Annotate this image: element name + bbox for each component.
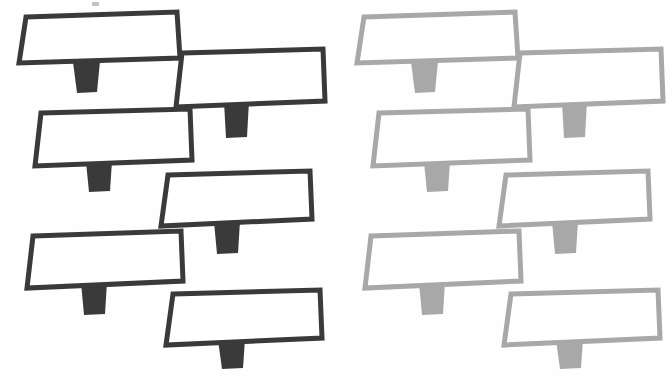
- signpost-figure-canvas: [0, 0, 669, 379]
- signpost-board-light-sign-3: [373, 109, 530, 166]
- signpost-board-light-sign-4: [499, 171, 650, 226]
- signpost-board-light-sign-2: [514, 49, 663, 107]
- signpost-board-dark-sign-5: [27, 231, 183, 288]
- signpost-board-light-sign-5: [365, 231, 521, 288]
- signpost-post-dark-sign-4: [214, 221, 240, 254]
- figure-root: Two groups of signpost shapes Twelve ide…: [0, 0, 669, 379]
- signpost-board-light-sign-6: [504, 290, 660, 345]
- scan-speck-artifact: [92, 2, 99, 6]
- signpost-board-dark-sign-2: [176, 49, 325, 107]
- signpost-post-dark-sign-1: [73, 61, 100, 93]
- signpost-board-light-sign-1: [357, 12, 518, 63]
- signpost-post-light-sign-4: [552, 221, 578, 254]
- signpost-post-light-sign-1: [411, 61, 438, 93]
- signpost-board-dark-sign-3: [35, 109, 192, 166]
- signpost-board-dark-sign-6: [166, 290, 322, 345]
- signpost-board-dark-sign-4: [161, 171, 312, 226]
- signpost-board-dark-sign-1: [19, 12, 180, 63]
